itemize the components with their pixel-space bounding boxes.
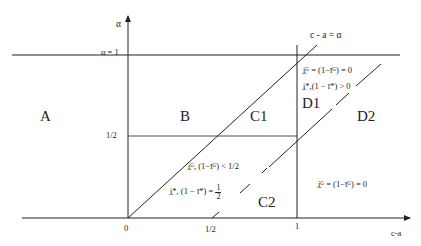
- x-tick-one: 1: [295, 222, 299, 231]
- region-c1-label: C1: [250, 109, 268, 124]
- y-tick-half: 1/2: [106, 131, 117, 140]
- region-a-label: A: [40, 109, 51, 124]
- second-diagonal-seg3: [262, 168, 267, 173]
- second-diagonal-seg5: [336, 93, 349, 105]
- phase-diagram: α α = 1 1/2 0 1/2 1 c-a c - a = α A B C1…: [0, 0, 421, 246]
- c2-condition-line2-prefix: i̲*, (1 − ī*) =: [170, 186, 213, 196]
- one-half-fraction: 1 2: [215, 184, 221, 201]
- x-tick-zero: 0: [124, 224, 128, 233]
- d1-condition-line1: i̲ᴳ = (1−īᴳ) = 0: [303, 66, 352, 75]
- second-diagonal-seg2: [240, 184, 250, 193]
- diagonal-c-minus-a-equals-alpha: [128, 45, 317, 218]
- region-b-label: B: [180, 109, 190, 124]
- c2-condition-line1: i̲ᴳ, (1−īᴳ) < 1/2: [188, 162, 239, 171]
- y-tick-alpha-one: α = 1: [101, 48, 119, 57]
- d2-condition-line1: i̲ᴳ = (1−īᴳ) = 0: [318, 180, 367, 189]
- x-axis-label: c-a: [391, 229, 401, 238]
- region-d2-label: D2: [357, 109, 375, 124]
- c2-condition-line2: i̲*, (1 − ī*) = 1 2: [170, 184, 221, 201]
- d1-condition-line2: i̲*,(1 − ī*) > 0: [303, 82, 351, 91]
- second-diagonal-seg4: [269, 109, 332, 167]
- y-axis-label: α: [116, 20, 121, 30]
- region-d1-label: D1: [302, 96, 320, 111]
- second-diagonal-seg6: [356, 64, 381, 86]
- x-tick-half: 1/2: [205, 225, 216, 234]
- region-c2-label: C2: [258, 195, 276, 210]
- diagonal-label: c - a = α: [310, 31, 341, 41]
- second-diagonal-seg1: [212, 212, 219, 218]
